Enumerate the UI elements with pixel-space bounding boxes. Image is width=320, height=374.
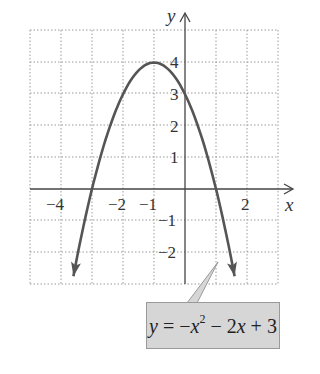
x-tick-label: 2	[241, 195, 250, 214]
y-tick-label: −2	[158, 243, 176, 262]
equation-callout: y = −x2 − 2x + 3	[146, 302, 280, 349]
y-tick-label: 1	[170, 148, 179, 167]
y-tick-label: 3	[170, 85, 179, 104]
x-tick-label: −4	[46, 195, 65, 214]
y-axis-label: y	[165, 5, 176, 26]
y-tick-label: 4	[170, 53, 179, 72]
grid	[30, 30, 278, 284]
y-tick-label: −1	[158, 211, 176, 230]
x-tick-label: −2	[108, 195, 126, 214]
y-tick-label: 2	[170, 117, 179, 136]
x-axis-label: x	[284, 194, 294, 215]
equation-text: y = −x2 − 2x + 3	[149, 314, 277, 338]
x-tick-label: −1	[139, 195, 157, 214]
callout-pointer	[187, 262, 218, 303]
